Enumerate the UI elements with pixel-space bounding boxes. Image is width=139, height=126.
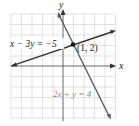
coordinate-graph: x y x − 3y = −5 (1, 2) 2x + y = 4 bbox=[0, 0, 139, 126]
equation-label-1: x − 3y = −5 bbox=[9, 39, 57, 49]
equation-label-2: 2x + y = 4 bbox=[53, 89, 92, 99]
x-axis-label: x bbox=[118, 60, 124, 71]
y-axis-label: y bbox=[58, 0, 64, 10]
intersection-point bbox=[71, 42, 76, 47]
intersection-label: (1, 2) bbox=[77, 43, 98, 54]
